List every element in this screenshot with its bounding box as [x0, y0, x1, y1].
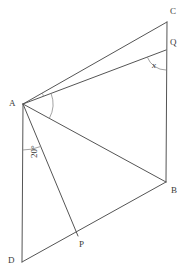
angle-arc-A-upper: [42, 93, 43, 96]
segment-C-B: [166, 22, 167, 182]
geometry-diagram: A B C D P Q 20° x: [0, 0, 185, 273]
segment-A-B: [23, 104, 166, 182]
angle-arc-A-lower: [49, 93, 53, 118]
angle-arc-x: [147, 57, 166, 70]
point-label-P: P: [79, 240, 84, 249]
segment-A-Q: [23, 50, 166, 104]
diagram-canvas: [0, 0, 185, 273]
segment-D-B: [22, 182, 166, 262]
point-label-A: A: [9, 99, 16, 108]
angle-label-20deg: 20°: [30, 145, 39, 158]
angle-label-x: x: [152, 61, 156, 70]
point-label-B: B: [171, 186, 177, 195]
point-label-Q: Q: [170, 38, 177, 47]
point-label-D: D: [8, 256, 15, 265]
segment-A-P: [23, 104, 78, 236]
point-label-C: C: [170, 7, 176, 16]
segment-A-D: [22, 104, 23, 262]
segment-A-C: [23, 22, 167, 104]
